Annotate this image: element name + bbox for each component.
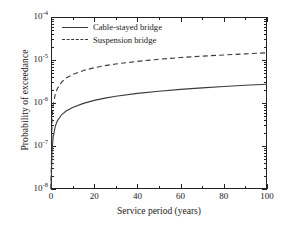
legend-label: Suspension bridge: [93, 34, 156, 47]
x-axis-title: Service period (years): [51, 206, 267, 216]
legend: Cable-stayed bridge Suspension bridge: [62, 21, 162, 46]
x-tick-label: 60: [166, 191, 196, 201]
y-tick-label: 10-4: [22, 12, 48, 21]
figure: Probability of exceedance 10-8 10-7 10-6…: [0, 0, 290, 232]
tick-mark: [262, 189, 267, 190]
y-tick-label: 10-5: [22, 55, 48, 64]
x-tick-label: 100: [252, 191, 282, 201]
legend-item: Suspension bridge: [62, 34, 162, 47]
x-tick-label: 80: [209, 191, 239, 201]
legend-item: Cable-stayed bridge: [62, 21, 162, 34]
legend-key-solid-icon: [62, 23, 88, 32]
tick-mark: [51, 189, 56, 190]
tick-mark: [267, 184, 268, 189]
x-tick-label: 20: [79, 191, 109, 201]
tick-mark: [267, 17, 268, 22]
x-tick-label: 40: [122, 191, 152, 201]
legend-key-dashed-icon: [62, 35, 88, 44]
y-tick-label: 10-7: [22, 141, 48, 150]
legend-label: Cable-stayed bridge: [93, 21, 162, 34]
y-tick-label: 10-6: [22, 98, 48, 107]
series-line-cable-stayed-bridge: [51, 84, 267, 189]
series-line-suspension-bridge: [51, 53, 267, 189]
x-tick-label: 0: [36, 191, 66, 201]
